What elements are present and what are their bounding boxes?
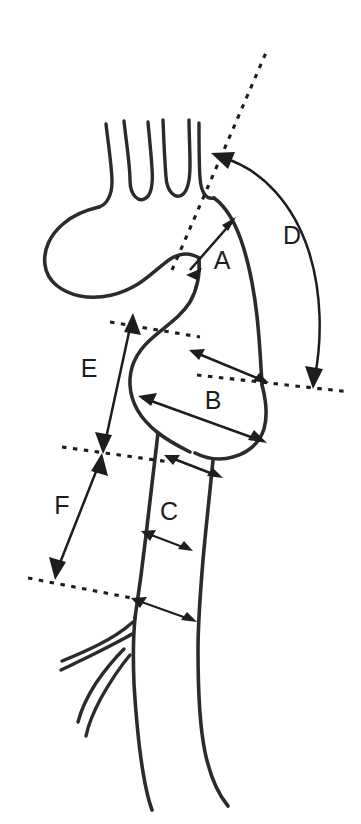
measurement-d-arrowhead-end bbox=[305, 366, 323, 389]
supra-aortic-branches bbox=[99, 120, 214, 207]
measurement-b: B bbox=[138, 349, 269, 478]
anatomy-group bbox=[45, 120, 267, 810]
measurement-c-label: C bbox=[160, 497, 178, 525]
reference-line-lower bbox=[28, 578, 142, 600]
measurement-f-label: F bbox=[54, 491, 69, 519]
descending-aorta-lower-left-wall bbox=[133, 618, 152, 810]
aortic-arch-outer-wall bbox=[45, 207, 199, 297]
measurement-b-arrowhead-start bbox=[138, 393, 157, 406]
measurement-c-arrowhead-end bbox=[178, 541, 193, 551]
distal-branch-vessels bbox=[61, 622, 133, 736]
measurement-b-upper-line bbox=[194, 352, 264, 381]
measurement-a-label: A bbox=[214, 246, 231, 274]
measurement-f: F bbox=[49, 453, 108, 580]
measurement-a: A bbox=[186, 217, 236, 280]
measurement-d-arrowhead-start bbox=[211, 152, 235, 169]
measurement-b-lower-arrowhead-end bbox=[207, 468, 223, 478]
measurement-f-arrowhead-top bbox=[91, 453, 108, 476]
measurement-c: C bbox=[131, 497, 197, 622]
measurement-d-arc bbox=[224, 158, 320, 376]
measurement-c-lower-arrowhead-end bbox=[181, 612, 197, 622]
measurement-e-line bbox=[105, 323, 131, 443]
branch-vessel-2 bbox=[124, 121, 152, 200]
descending-aorta-left-wall bbox=[135, 433, 158, 618]
measurement-d-label: D bbox=[283, 221, 301, 249]
measurement-e-label: E bbox=[81, 354, 98, 382]
distal-branch-1 bbox=[62, 622, 133, 661]
branch-vessel-1 bbox=[99, 124, 112, 207]
branch-vessel-3 bbox=[163, 120, 190, 196]
anatomical-diagram: Aortic arch measurement diagram Line dra… bbox=[0, 0, 361, 824]
aortic-diagram-canvas: Aortic arch measurement diagram Line dra… bbox=[0, 0, 361, 824]
measurement-f-arrowhead-bottom bbox=[49, 557, 66, 580]
ascending-aorta-outer-wall bbox=[214, 198, 262, 385]
descending-aorta-right-wall bbox=[198, 460, 228, 806]
measurement-b-label: B bbox=[205, 386, 222, 414]
measurement-e-arrowhead-top bbox=[124, 313, 141, 335]
aortic-root-sinus-left bbox=[130, 258, 199, 452]
measurement-e: E bbox=[81, 313, 141, 454]
